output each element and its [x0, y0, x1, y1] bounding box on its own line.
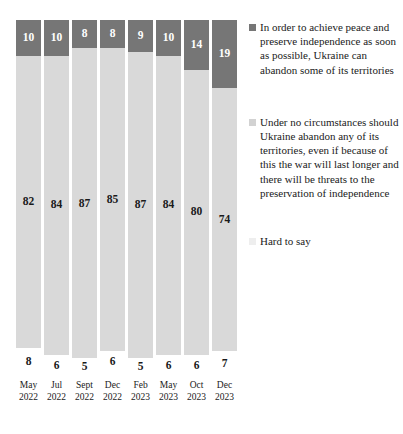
- legend-item-hard-to-say: Hard to say: [249, 234, 401, 248]
- bar-oct-2023[interactable]: 14806: [184, 20, 209, 376]
- x-tick-year: 2022: [44, 392, 69, 404]
- legend-item-no-abandon: Under no circumstances should Ukraine ab…: [249, 115, 401, 200]
- bar-may-2023[interactable]: 10846: [156, 20, 181, 376]
- segment-abandon-territories[interactable]: 10: [44, 20, 69, 56]
- x-axis-tick-label: Dec2023: [212, 380, 237, 403]
- chart-legend: In order to achieve peace and preserve i…: [249, 20, 401, 262]
- x-tick-month: Oct: [184, 380, 209, 392]
- x-tick-year: 2023: [212, 392, 237, 404]
- x-tick-year: 2023: [184, 392, 209, 404]
- segment-value-label: 6: [194, 360, 200, 372]
- segment-value-label: 8: [110, 28, 116, 40]
- segment-value-label: 74: [219, 214, 231, 226]
- x-axis-tick-label: Feb2023: [128, 380, 153, 403]
- segment-hard-to-say[interactable]: 5: [128, 358, 153, 376]
- segment-abandon-territories[interactable]: 19: [212, 20, 237, 88]
- segment-no-abandon[interactable]: 82: [16, 56, 41, 348]
- segment-no-abandon[interactable]: 74: [212, 88, 237, 351]
- segment-value-label: 6: [110, 356, 116, 368]
- x-tick-month: Sept: [72, 380, 97, 392]
- bar-sept-2022[interactable]: 8875: [72, 20, 97, 376]
- segment-hard-to-say[interactable]: 6: [44, 355, 69, 376]
- stacked-bar-chart-page: 1082810846887588569875108461480619747 Ma…: [0, 0, 403, 434]
- x-tick-month: May: [16, 380, 41, 392]
- x-axis-tick-label: May2023: [156, 380, 181, 403]
- legend-label-series-2: Under no circumstances should Ukraine ab…: [260, 115, 401, 200]
- segment-no-abandon[interactable]: 87: [72, 48, 97, 358]
- segment-value-label: 19: [219, 48, 231, 60]
- legend-swatch-icon-series-3: [249, 238, 256, 245]
- x-tick-year: 2023: [156, 392, 181, 404]
- x-axis-labels: May2022Jul2022Sept2022Dec2022Feb2023May2…: [16, 380, 238, 403]
- segment-hard-to-say[interactable]: 5: [72, 358, 97, 376]
- x-axis-tick-label: Oct2023: [184, 380, 209, 403]
- segment-value-label: 10: [23, 32, 35, 44]
- segment-hard-to-say[interactable]: 6: [184, 355, 209, 376]
- segment-value-label: 84: [51, 199, 63, 211]
- segment-abandon-territories[interactable]: 9: [128, 20, 153, 52]
- segment-value-label: 87: [79, 198, 91, 210]
- legend-label-series-3: Hard to say: [260, 234, 311, 248]
- segment-no-abandon[interactable]: 84: [156, 56, 181, 355]
- segment-value-label: 8: [26, 356, 32, 368]
- segment-value-label: 82: [23, 196, 35, 208]
- segment-value-label: 6: [54, 360, 60, 372]
- bar-may-2022[interactable]: 10828: [16, 20, 41, 376]
- bar-dec-2023[interactable]: 19747: [212, 20, 237, 376]
- x-tick-month: May: [156, 380, 181, 392]
- legend-label-series-1: In order to achieve peace and preserve i…: [260, 20, 401, 77]
- chart-plot-area: 1082810846887588569875108461480619747 Ma…: [0, 0, 246, 434]
- bar-feb-2023[interactable]: 9875: [128, 20, 153, 376]
- segment-value-label: 5: [82, 361, 88, 373]
- segment-no-abandon[interactable]: 87: [128, 52, 153, 359]
- x-axis-tick-label: Sept2022: [72, 380, 97, 403]
- segment-hard-to-say[interactable]: 7: [212, 351, 237, 376]
- segment-no-abandon[interactable]: 80: [184, 70, 209, 355]
- legend-swatch-icon-series-1: [249, 24, 256, 31]
- x-axis-tick-label: May2022: [16, 380, 41, 403]
- legend-item-abandon-territories: In order to achieve peace and preserve i…: [249, 20, 401, 77]
- x-tick-year: 2022: [16, 392, 41, 404]
- bar-jul-2022[interactable]: 10846: [44, 20, 69, 376]
- segment-value-label: 14: [191, 39, 203, 51]
- segment-value-label: 6: [166, 360, 172, 372]
- segment-value-label: 9: [138, 30, 144, 42]
- x-tick-month: Dec: [100, 380, 125, 392]
- segment-abandon-territories[interactable]: 10: [16, 20, 41, 56]
- segment-abandon-territories[interactable]: 10: [156, 20, 181, 56]
- x-axis-tick-label: Dec2022: [100, 380, 125, 403]
- segment-value-label: 85: [107, 194, 119, 206]
- x-tick-year: 2023: [128, 392, 153, 404]
- segment-value-label: 5: [138, 361, 144, 373]
- segment-value-label: 80: [191, 206, 203, 218]
- x-tick-month: Jul: [44, 380, 69, 392]
- bar-dec-2022[interactable]: 8856: [100, 20, 125, 376]
- segment-abandon-territories[interactable]: 8: [72, 20, 97, 48]
- x-tick-year: 2022: [100, 392, 125, 404]
- segment-abandon-territories[interactable]: 14: [184, 20, 209, 70]
- x-tick-month: Dec: [212, 380, 237, 392]
- segment-value-label: 10: [51, 32, 63, 44]
- segment-hard-to-say[interactable]: 6: [156, 355, 181, 376]
- segment-value-label: 10: [163, 32, 175, 44]
- segment-value-label: 84: [163, 199, 175, 211]
- segment-value-label: 7: [222, 358, 228, 370]
- segment-value-label: 87: [135, 199, 147, 211]
- segment-hard-to-say[interactable]: 8: [16, 348, 41, 376]
- bars-container: 1082810846887588569875108461480619747: [16, 20, 238, 376]
- x-tick-month: Feb: [128, 380, 153, 392]
- segment-hard-to-say[interactable]: 6: [100, 351, 125, 372]
- segment-value-label: 8: [82, 28, 88, 40]
- legend-swatch-icon-series-2: [249, 119, 256, 126]
- segment-no-abandon[interactable]: 84: [44, 56, 69, 355]
- x-axis-tick-label: Jul2022: [44, 380, 69, 403]
- segment-abandon-territories[interactable]: 8: [100, 20, 125, 48]
- segment-no-abandon[interactable]: 85: [100, 48, 125, 351]
- x-tick-year: 2022: [72, 392, 97, 404]
